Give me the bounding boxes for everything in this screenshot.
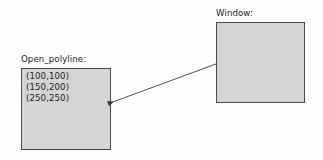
open-polyline-box: (100,100) (150,200) (250,250) (21, 68, 111, 150)
list-item: (250,250) (26, 93, 108, 104)
list-item: (150,200) (26, 82, 108, 93)
window-box (216, 22, 305, 103)
diagram-canvas: Open_polyline: (100,100) (150,200) (250,… (0, 0, 323, 160)
open-polyline-point-list: (100,100) (150,200) (250,250) (26, 71, 108, 105)
window-to-polyline-arrow (108, 64, 216, 104)
list-item: (100,100) (26, 71, 108, 82)
open-polyline-label: Open_polyline: (21, 54, 86, 64)
window-label: Window: (216, 8, 253, 18)
